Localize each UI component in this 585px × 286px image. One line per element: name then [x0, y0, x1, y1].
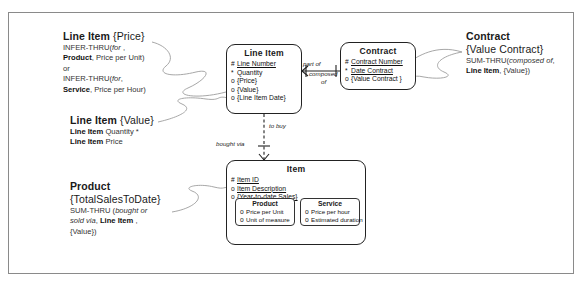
annotation-line: Service, Price per Hour): [63, 85, 146, 95]
subtype-title: Service: [301, 199, 359, 208]
annotation-header-brace: {Value Contract}: [466, 43, 543, 55]
entity-line-item[interactable]: Line Item #Line Number*Quantityo{Price}o…: [226, 44, 302, 114]
entity-title: Contract: [341, 43, 415, 58]
entity-attribute: *Quantity: [227, 69, 301, 78]
entity-attribute: o{Price}: [227, 77, 301, 86]
annotation-header-brace: {Value}: [120, 114, 154, 126]
annotation-header: Line Item {Value}: [70, 114, 154, 127]
attribute-name: {Price}: [237, 77, 257, 84]
annotation-line: Line Item Quantity *: [70, 127, 154, 137]
annotation-body: INFER-THRU(for ,Product, Price per Unit)…: [63, 43, 146, 95]
annotation-line-item-price: Line Item {Price} INFER-THRU(for ,Produc…: [63, 30, 146, 95]
attribute-name: Estimated duration: [311, 216, 363, 223]
entity-attribute: o{Value}: [227, 86, 301, 95]
entity-title: Item: [227, 161, 365, 176]
relationship-label-bought-via: bought via: [216, 140, 245, 147]
annotation-line: Line Item Price: [70, 137, 154, 147]
entity-attribute: oItem Description: [227, 185, 365, 194]
entity-attribute: oUnit of measure: [236, 216, 294, 224]
annotation-line: INFER-THRU(for,: [63, 74, 146, 84]
entity-attribute: oPrice per Unit: [236, 208, 294, 216]
entity-attribute: oEstimated duration: [301, 216, 359, 224]
entity-attribute: o{Value Contract }: [341, 75, 415, 84]
annotation-header: Contract: [466, 30, 574, 43]
entity-title: Line Item: [227, 45, 301, 60]
entity-attribute: *Date Contract: [341, 67, 415, 76]
entity-attribute: #Contract Number: [341, 58, 415, 67]
annotation-header-brace: {Price}: [113, 30, 145, 42]
entity-attribute: #Line Number: [227, 60, 301, 69]
subtype-title: Product: [236, 199, 294, 208]
attribute-list: #Contract Number*Date Contracto{Value Co…: [341, 58, 415, 84]
connector-value: [158, 97, 228, 122]
connector-price: [152, 42, 226, 96]
annotation-header: Product: [70, 180, 182, 193]
relationship-label-composed-of: of: [321, 78, 326, 85]
annotation-header-bold: Line Item: [63, 30, 110, 42]
attribute-name: Unit of measure: [246, 216, 290, 223]
attribute-name: Contract Number: [351, 58, 403, 65]
attribute-name: Date Contract: [351, 67, 393, 74]
entity-item[interactable]: Item #Item IDoItem Descriptiono{Year-to-…: [226, 160, 366, 245]
attribute-name: {Line Item Date}: [237, 94, 286, 101]
attribute-name: Price per hour: [311, 208, 350, 215]
entity-attribute: oPrice per hour: [301, 208, 359, 216]
annotation-header-brace-line: {Value Contract}: [466, 43, 574, 56]
annotation-line-item-value: Line Item {Value} Line Item Quantity *Li…: [70, 114, 154, 148]
annotation-body: SUM-THRU (bought orsold via, Line Item ,…: [70, 206, 182, 237]
relationship-label-composed: composed: [309, 70, 338, 77]
annotation-line: Product, Price per Unit): [63, 53, 146, 63]
annotation-product-total-sales: Product {TotalSalesToDate} SUM-THRU (bou…: [70, 180, 182, 237]
relationship-label-part-of: part of: [303, 60, 321, 67]
attribute-name: Line Number: [237, 60, 276, 67]
attribute-name: Price per Unit: [246, 208, 283, 215]
annotation-contract-value: Contract {Value Contract} SUM-THRU(compo…: [466, 30, 574, 77]
annotation-header-brace-line: {TotalSalesToDate}: [70, 193, 182, 206]
annotation-line: SUM-THRU(composed of,: [466, 56, 574, 66]
annotation-header-brace: {TotalSalesToDate}: [70, 193, 161, 205]
relationship-label-to-buy: to buy: [269, 122, 286, 129]
annotation-body: SUM-THRU(composed of,Line Item, {Value}): [466, 56, 574, 77]
rel-crow-left-2: [302, 71, 308, 76]
entity-attribute: #Item ID: [227, 176, 365, 185]
attribute-name: Item Description: [237, 185, 286, 192]
attribute-name: Item ID: [237, 176, 259, 183]
annotation-line: {Value}): [70, 227, 182, 237]
diagram-canvas: Line Item {Price} INFER-THRU(for ,Produc…: [0, 0, 585, 286]
annotation-header-bold: Contract: [466, 30, 510, 42]
annotation-line: INFER-THRU(for ,: [63, 43, 146, 53]
attribute-list: oPrice per UnitoUnit of measure: [236, 208, 294, 223]
attribute-name: {Value Contract }: [351, 75, 402, 82]
entity-attribute: o{Line Item Date}: [227, 94, 301, 103]
attribute-list: #Line Number*Quantityo{Price}o{Value}o{L…: [227, 60, 301, 103]
annotation-header-bold: Line Item: [70, 114, 117, 126]
attribute-name: {Value}: [237, 86, 258, 93]
annotation-line: Line Item, {Value}): [466, 66, 574, 76]
entity-subtype-product[interactable]: Product oPrice per UnitoUnit of measure: [235, 198, 295, 226]
annotation-line: or: [63, 64, 146, 74]
annotation-body: Line Item Quantity *Line Item Price: [70, 127, 154, 148]
attribute-name: Quantity: [237, 69, 262, 76]
annotation-header-bold: Product: [70, 180, 110, 192]
annotation-line: sold via, Line Item ,: [70, 216, 182, 226]
entity-contract[interactable]: Contract #Contract Number*Date Contracto…: [340, 42, 416, 90]
entity-subtype-service[interactable]: Service oPrice per houroEstimated durati…: [300, 198, 360, 226]
annotation-header: Line Item {Price}: [63, 30, 146, 43]
annotation-line: SUM-THRU (bought or: [70, 206, 182, 216]
attribute-list: oPrice per houroEstimated duration: [301, 208, 359, 223]
